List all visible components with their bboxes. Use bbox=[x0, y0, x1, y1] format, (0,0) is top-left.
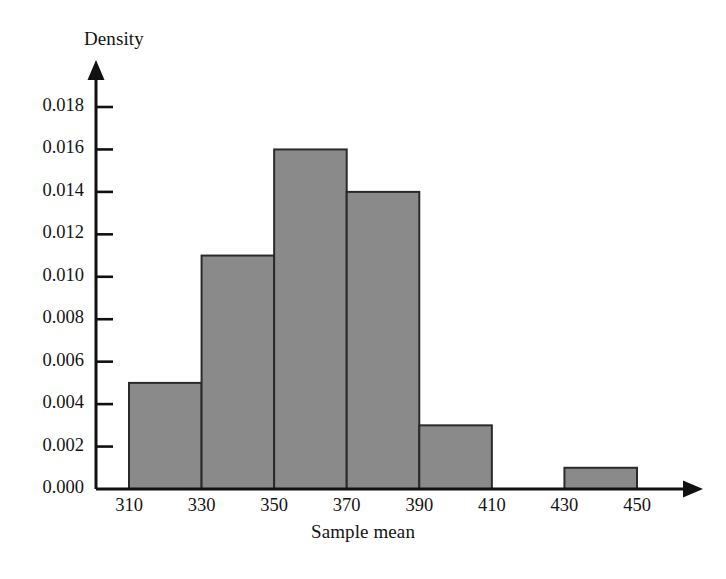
plot-area bbox=[0, 0, 726, 579]
histogram-bar bbox=[564, 468, 637, 489]
x-tick-label: 370 bbox=[317, 495, 377, 516]
histogram-bar bbox=[419, 425, 492, 489]
histogram-bar bbox=[129, 383, 202, 489]
y-tick-label: 0.008 bbox=[8, 307, 84, 328]
x-tick-label: 350 bbox=[244, 495, 304, 516]
x-tick-label: 390 bbox=[389, 495, 449, 516]
histogram-bar bbox=[347, 192, 420, 489]
histogram-bar bbox=[202, 256, 275, 489]
x-tick-label: 430 bbox=[534, 495, 594, 516]
y-tick-label: 0.014 bbox=[8, 180, 84, 201]
y-axis-arrowhead bbox=[88, 60, 105, 80]
y-tick-label: 0.000 bbox=[8, 477, 84, 498]
y-tick-marks-group bbox=[96, 107, 113, 447]
y-tick-label: 0.010 bbox=[8, 265, 84, 286]
y-axis-title: Density bbox=[84, 28, 144, 50]
x-tick-label: 410 bbox=[462, 495, 522, 516]
x-tick-label: 330 bbox=[172, 495, 232, 516]
x-tick-label: 310 bbox=[99, 495, 159, 516]
y-tick-label: 0.018 bbox=[8, 95, 84, 116]
y-tick-label: 0.002 bbox=[8, 435, 84, 456]
x-axis-arrowhead bbox=[683, 481, 703, 498]
y-tick-label: 0.016 bbox=[8, 137, 84, 158]
histogram-figure: Density Sample mean 0.0000.0020.0040.006… bbox=[0, 0, 726, 579]
x-axis-title: Sample mean bbox=[0, 521, 726, 543]
y-tick-label: 0.006 bbox=[8, 350, 84, 371]
bars-group bbox=[129, 149, 637, 489]
histogram-bar bbox=[274, 149, 347, 489]
y-tick-label: 0.004 bbox=[8, 392, 84, 413]
x-tick-label: 450 bbox=[607, 495, 667, 516]
y-tick-label: 0.012 bbox=[8, 222, 84, 243]
